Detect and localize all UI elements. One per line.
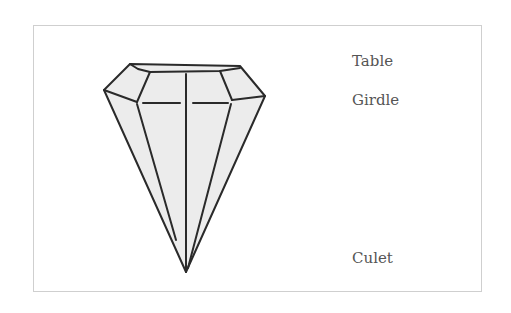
label-girdle: Girdle — [352, 91, 399, 109]
diamond-outline — [104, 64, 265, 272]
diamond-illustration — [0, 0, 511, 313]
label-table: Table — [352, 52, 393, 70]
label-culet: Culet — [352, 249, 393, 267]
